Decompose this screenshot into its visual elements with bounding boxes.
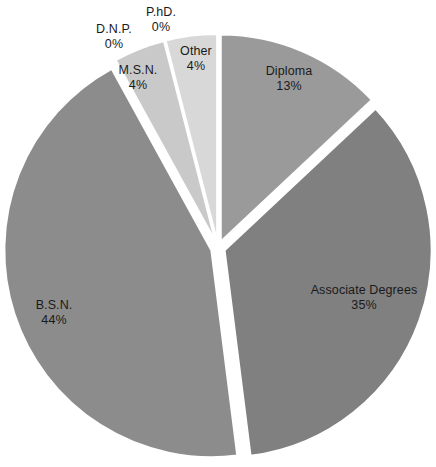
slice-label-dnp-value: 0% xyxy=(83,37,145,52)
slice-label-diploma-value: 13% xyxy=(243,79,335,94)
slice-label-bsn-name: B.S.N. xyxy=(13,298,95,313)
slice-label-diploma-name: Diploma xyxy=(243,64,335,79)
slice-label-associate-name: Associate Degrees xyxy=(303,283,425,298)
slice-label-phd-name: P.hD. xyxy=(131,5,191,20)
slice-label-bsn: B.S.N. 44% xyxy=(13,298,95,328)
slice-label-diploma: Diploma 13% xyxy=(243,64,335,94)
slice-label-associate-value: 35% xyxy=(303,298,425,313)
pie-chart: D.N.P. 0% P.hD. 0% M.S.N. 4% Other 4% Di… xyxy=(0,0,436,467)
slice-label-msn-name: M.S.N. xyxy=(107,63,169,78)
slice-label-other: Other 4% xyxy=(165,44,227,74)
slice-label-phd-value: 0% xyxy=(131,20,191,35)
slice-label-msn-value: 4% xyxy=(107,78,169,93)
slice-label-phd: P.hD. 0% xyxy=(131,5,191,35)
slice-label-msn: M.S.N. 4% xyxy=(107,63,169,93)
slice-label-other-value: 4% xyxy=(165,59,227,74)
slice-label-bsn-value: 44% xyxy=(13,313,95,328)
slice-label-other-name: Other xyxy=(165,44,227,59)
slice-label-associate: Associate Degrees 35% xyxy=(303,283,425,313)
